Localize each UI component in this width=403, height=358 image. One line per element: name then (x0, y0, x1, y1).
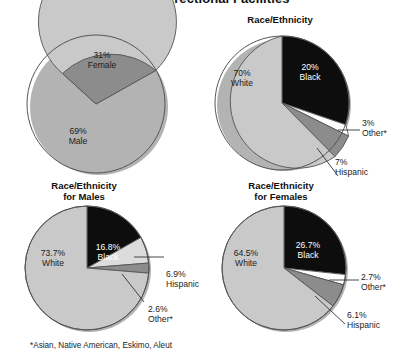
figure-local-correctional-facilities: Local Correctional Facilities Gender 31%… (0, 0, 403, 358)
pie-callout-hispanic: 7% Hispanic (335, 157, 368, 177)
panel-race-ethnicity-total: Race/Ethnicity 20% Black 70% White (205, 14, 403, 180)
pie-callout-other: 2.6% Other* (148, 304, 173, 324)
panel-title-race-ethnicity-males: Race/Ethnicity for Males (8, 180, 160, 202)
panel-title-race-ethnicity-females: Race/Ethnicity for Females (205, 180, 357, 202)
pie-chart-gender (22, 30, 172, 180)
panel-race-ethnicity-females: Race/Ethnicity for Females 26.7% Black 6… (205, 180, 403, 340)
panel-race-ethnicity-males: Race/Ethnicity for Males 16.8% Black 73.… (8, 180, 206, 340)
pie-callout-hispanic: 6.9% Hispanic (166, 269, 199, 289)
pie-svg-gender (22, 30, 172, 180)
pie-callout-other: 3% Other* (362, 118, 387, 138)
pie-slice-black (284, 206, 346, 275)
panel-gender: Gender 31% Female 69% Male (8, 14, 198, 180)
pie-callout-hispanic: 6.1% Hispanic (347, 310, 380, 330)
footnote-other-definition: *Asian, Native American, Eskimo, Aleut (30, 341, 172, 350)
panel-title-race-ethnicity-total: Race/Ethnicity (205, 14, 355, 25)
pie-callout-other: 2.7% Other* (361, 272, 386, 292)
